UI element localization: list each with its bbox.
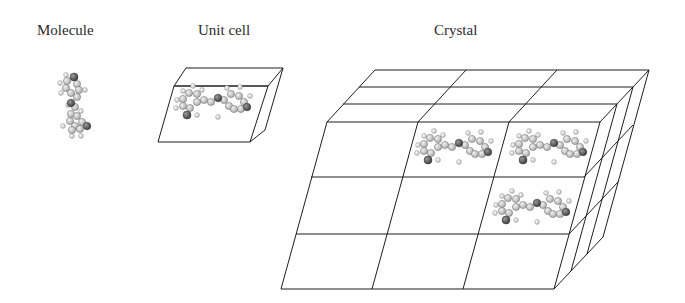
crystal-lattice <box>281 70 649 289</box>
crystal-molecule-r2c3 <box>493 189 572 225</box>
molecule-model <box>58 73 91 139</box>
unit-cell-model <box>158 68 283 142</box>
diagram-canvas <box>0 0 685 303</box>
crystal-molecule-r1c2 <box>415 129 494 165</box>
crystal-molecule-r1c3 <box>510 129 589 165</box>
